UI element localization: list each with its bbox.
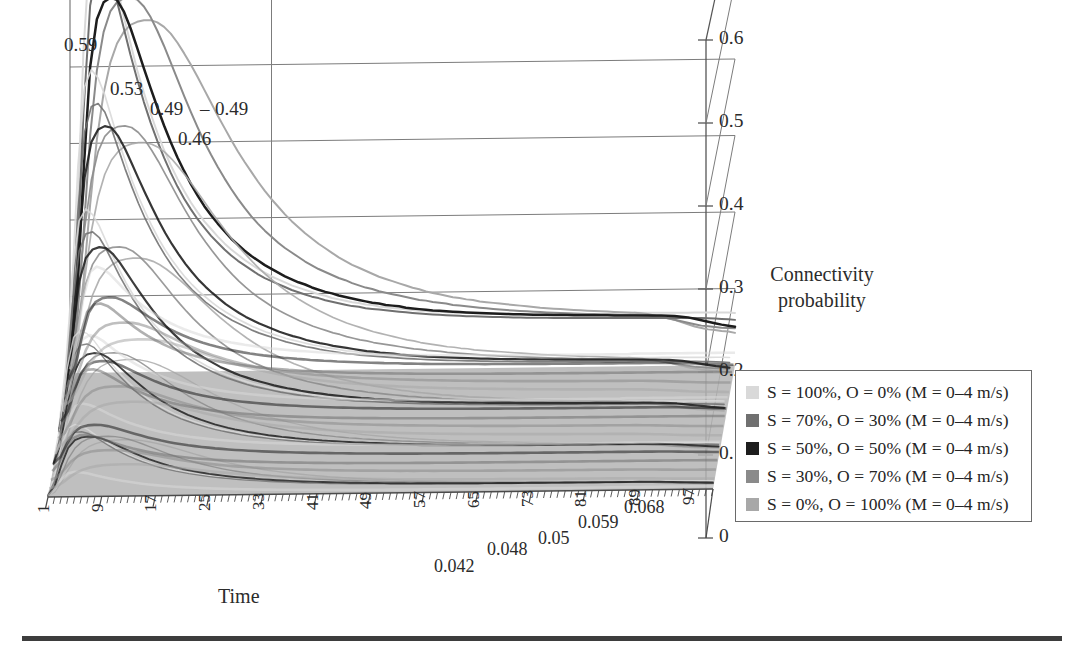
x-axis-tick: 1 [34, 505, 54, 514]
x-axis-tick: 41 [303, 493, 323, 510]
x-axis-tick: 65 [464, 491, 484, 508]
y-axis-title-line1: Connectivity [742, 262, 902, 288]
legend-item[interactable]: S = 100%, O = 0% (M = 0–4 m/s) [746, 378, 1022, 406]
x-axis-tick: 9 [88, 504, 108, 513]
chart-legend: S = 100%, O = 0% (M = 0–4 m/s)S = 70%, O… [735, 370, 1032, 522]
peak-value-label: 0.53 [110, 78, 143, 100]
legend-item-label: S = 50%, O = 50% (M = 0–4 m/s) [767, 438, 1009, 459]
x-axis-tick: 73 [518, 490, 538, 507]
legend-color-swatch [746, 498, 759, 511]
legend-item-label: S = 70%, O = 30% (M = 0–4 m/s) [767, 410, 1009, 431]
x-axis-title: Time [218, 585, 260, 608]
legend-item-label: S = 100%, O = 0% (M = 0–4 m/s) [767, 382, 1009, 403]
legend-item-label: S = 30%, O = 70% (M = 0–4 m/s) [767, 466, 1009, 487]
x-axis-tick: 25 [195, 494, 215, 511]
x-axis-tick: 33 [249, 493, 269, 510]
y-axis-tick: 0.3 [719, 276, 743, 298]
x-axis-tick: 57 [410, 491, 430, 508]
figure-3d-connectivity-chart: 00.10.20.30.40.50.6 19172533414957657381… [0, 0, 1082, 655]
peak-value-label: 0.49 [215, 98, 248, 120]
x-axis-tick: 49 [356, 492, 376, 509]
peak-value-label: 0.49 [150, 98, 183, 120]
x-axis-tick: 17 [141, 495, 161, 512]
legend-color-swatch [746, 442, 759, 455]
peak-label-connector: – [200, 98, 210, 120]
end-value-label: 0.048 [487, 539, 528, 560]
y-axis-title-line2: probability [742, 288, 902, 314]
peak-value-label: 0.46 [178, 128, 211, 150]
end-value-label: 0.068 [624, 497, 665, 518]
y-axis-tick: 0.6 [719, 27, 743, 49]
legend-item[interactable]: S = 70%, O = 30% (M = 0–4 m/s) [746, 406, 1022, 434]
y-axis-tick: 0.4 [719, 193, 743, 215]
y-axis-tick: 0 [719, 525, 729, 547]
legend-color-swatch [746, 414, 759, 427]
x-axis-tick: 81 [571, 490, 591, 507]
legend-item-label: S = 0%, O = 100% (M = 0–4 m/s) [767, 494, 1009, 515]
end-value-label: 0.05 [538, 528, 570, 549]
legend-item[interactable]: S = 30%, O = 70% (M = 0–4 m/s) [746, 462, 1022, 490]
end-value-label: 0.059 [578, 512, 619, 533]
y-axis-tick: 0.5 [719, 110, 743, 132]
legend-item[interactable]: S = 50%, O = 50% (M = 0–4 m/s) [746, 434, 1022, 462]
peak-value-label: 0.59 [64, 34, 97, 56]
x-axis-tick: 97 [679, 488, 699, 505]
legend-color-swatch [746, 386, 759, 399]
y-axis-title: Connectivity probability [742, 262, 902, 313]
legend-color-swatch [746, 470, 759, 483]
bottom-divider-rule [22, 636, 1062, 641]
end-value-label: 0.042 [434, 556, 475, 577]
legend-item[interactable]: S = 0%, O = 100% (M = 0–4 m/s) [746, 490, 1022, 518]
